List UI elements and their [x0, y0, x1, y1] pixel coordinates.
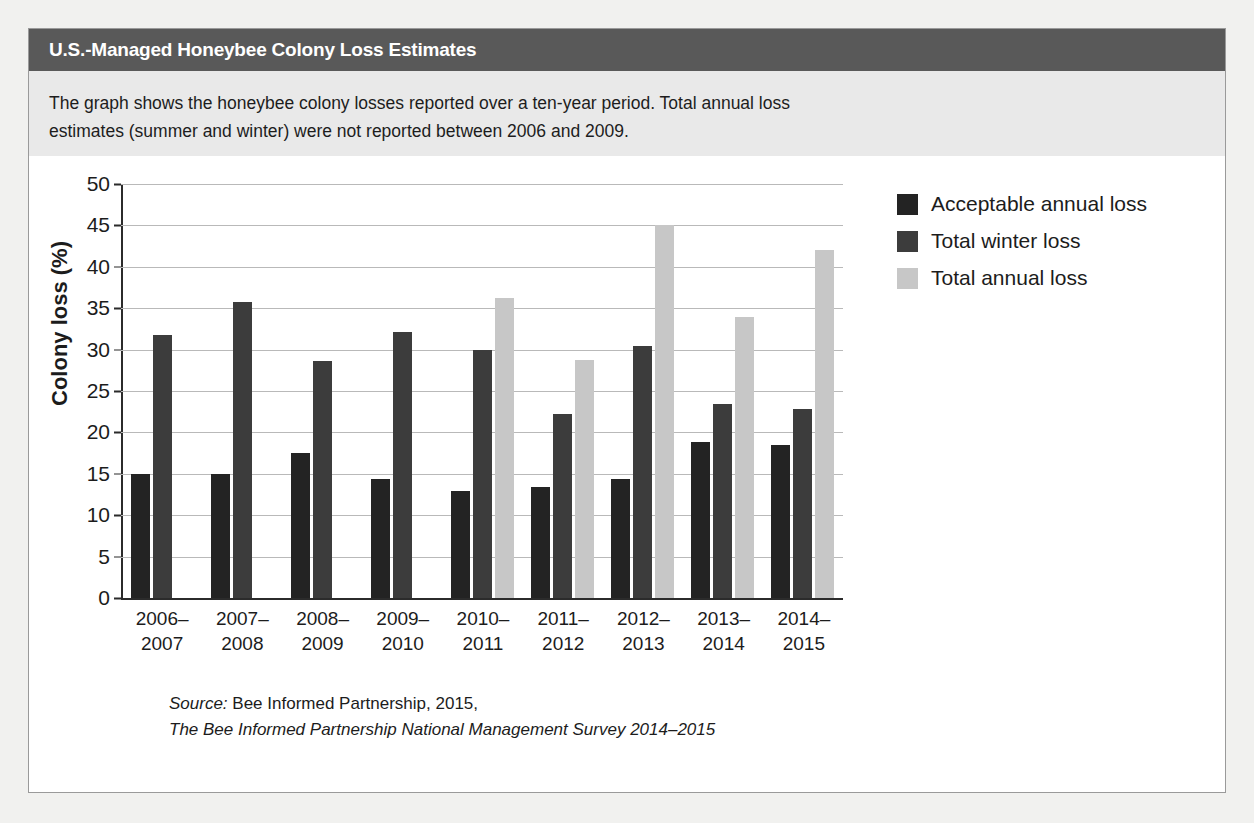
- x-tick-label-line: 2007–: [202, 606, 282, 631]
- source-line-2: The Bee Informed Partnership National Ma…: [169, 717, 715, 743]
- bar-group: [282, 184, 362, 598]
- y-tick-mark: [114, 556, 121, 558]
- source-label: Source:: [169, 694, 228, 713]
- legend-label: Total annual loss: [931, 266, 1087, 290]
- bar: [233, 302, 252, 598]
- x-tick-label-line: 2009–: [363, 606, 443, 631]
- bar: [473, 350, 492, 598]
- bar: [611, 479, 630, 598]
- x-tick-label-line: 2014: [684, 631, 764, 656]
- intro-text: The graph shows the honeybee colony loss…: [49, 89, 849, 145]
- bar: [815, 250, 834, 598]
- x-tick-label: 2014–2015: [764, 606, 844, 656]
- bar-group-bars: [282, 184, 362, 598]
- bar: [735, 317, 754, 598]
- bar: [371, 479, 390, 598]
- y-tick-mark: [114, 225, 121, 227]
- y-tick-label: 25: [87, 379, 110, 403]
- y-tick-label: 20: [87, 420, 110, 444]
- x-tick-label: 2007–2008: [202, 606, 282, 656]
- y-tick-mark: [114, 349, 121, 351]
- x-tick-label-line: 2008: [202, 631, 282, 656]
- x-tick-label-line: 2011–: [523, 606, 603, 631]
- y-tick-label: 10: [87, 503, 110, 527]
- bar-group-bars: [362, 184, 442, 598]
- bar: [131, 474, 150, 598]
- x-tick-label: 2011–2012: [523, 606, 603, 656]
- intro-section: The graph shows the honeybee colony loss…: [29, 71, 1225, 156]
- x-tick-label: 2008–2009: [282, 606, 362, 656]
- y-axis-label: Colony loss (%): [47, 241, 73, 406]
- x-tick-label-line: 2009: [282, 631, 362, 656]
- bar: [655, 225, 674, 598]
- x-tick-label: 2009–2010: [363, 606, 443, 656]
- source-text: Bee Informed Partnership, 2015,: [228, 694, 478, 713]
- y-tick-mark: [114, 184, 121, 186]
- x-tick-label-line: 2010: [363, 631, 443, 656]
- bar: [553, 414, 572, 598]
- legend-swatch-icon: [897, 268, 918, 289]
- y-tick-label: 30: [87, 338, 110, 362]
- bar: [211, 474, 230, 598]
- y-tick-label: 45: [87, 213, 110, 237]
- y-tick-mark: [114, 598, 121, 600]
- legend-item: Total annual loss: [897, 266, 1147, 290]
- bar: [313, 361, 332, 598]
- x-tick-label-line: 2014–: [764, 606, 844, 631]
- source-line-1: Source: Bee Informed Partnership, 2015,: [169, 691, 715, 717]
- y-tick-label: 0: [98, 586, 110, 610]
- bar: [771, 445, 790, 598]
- y-tick-label: 5: [98, 545, 110, 569]
- bar: [291, 453, 310, 598]
- bar-group-bars: [202, 184, 282, 598]
- bar: [451, 491, 470, 598]
- legend-label: Acceptable annual loss: [931, 192, 1147, 216]
- gridline: [121, 598, 843, 600]
- bar: [713, 404, 732, 598]
- x-tick-label-line: 2015: [764, 631, 844, 656]
- bar-group: [442, 184, 522, 598]
- bar-group-bars: [683, 184, 763, 598]
- bar-group: [523, 184, 603, 598]
- bar-groups: [122, 184, 843, 598]
- bar-group-bars: [763, 184, 843, 598]
- y-tick-label: 15: [87, 462, 110, 486]
- legend-swatch-icon: [897, 231, 918, 252]
- bar-group-bars: [122, 184, 202, 598]
- page-root: U.S.-Managed Honeybee Colony Loss Estima…: [0, 0, 1254, 823]
- x-tick-label-line: 2007: [122, 631, 202, 656]
- bar-group-bars: [523, 184, 603, 598]
- legend-item: Total winter loss: [897, 229, 1147, 253]
- chart-area: Colony loss (%) 05101520253035404550 200…: [29, 156, 1225, 792]
- bar-group-bars: [442, 184, 522, 598]
- bar-group: [362, 184, 442, 598]
- bar-group: [683, 184, 763, 598]
- bar-group: [122, 184, 202, 598]
- y-tick-label: 40: [87, 255, 110, 279]
- y-tick-mark: [114, 266, 121, 268]
- page-title: U.S.-Managed Honeybee Colony Loss Estima…: [49, 39, 476, 61]
- x-tick-label-line: 2012: [523, 631, 603, 656]
- figure-card: U.S.-Managed Honeybee Colony Loss Estima…: [28, 28, 1226, 793]
- bar-group-bars: [603, 184, 683, 598]
- legend-swatch-icon: [897, 194, 918, 215]
- bar: [531, 487, 550, 598]
- x-tick-label-line: 2008–: [282, 606, 362, 631]
- source-citation: Source: Bee Informed Partnership, 2015, …: [169, 691, 715, 743]
- bar-group: [202, 184, 282, 598]
- bar: [495, 298, 514, 598]
- y-tick-mark: [114, 515, 121, 517]
- x-tick-label-line: 2013–: [684, 606, 764, 631]
- bar: [633, 346, 652, 598]
- x-tick-label-line: 2013: [603, 631, 683, 656]
- y-tick-mark: [114, 391, 121, 393]
- plot-wrapper: Colony loss (%) 05101520253035404550 200…: [29, 156, 1225, 792]
- legend-label: Total winter loss: [931, 229, 1080, 253]
- y-tick-mark: [114, 432, 121, 434]
- bar: [691, 442, 710, 598]
- x-tick-label-line: 2011: [443, 631, 523, 656]
- x-tick-label-line: 2006–: [122, 606, 202, 631]
- x-tick-label: 2012–2013: [603, 606, 683, 656]
- y-tick-mark: [114, 308, 121, 310]
- x-axis-labels: 2006–20072007–20082008–20092009–20102010…: [122, 606, 844, 656]
